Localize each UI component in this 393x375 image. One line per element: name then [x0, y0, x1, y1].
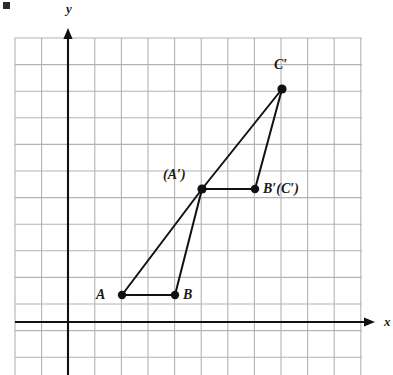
- point-label-b-prime-c-prime: B′(C′): [263, 182, 299, 196]
- point-label-b: B: [183, 288, 192, 302]
- point-dot-b: [171, 291, 179, 299]
- y-axis-arrowhead: [63, 28, 72, 39]
- point-dot-a-prime: [197, 184, 206, 193]
- segment-Bprime-Cprime: [255, 89, 282, 189]
- x-axis-arrowhead: [364, 317, 375, 326]
- corner-artifact-mark: [3, 2, 10, 9]
- x-axis-label: x: [384, 315, 391, 328]
- point-label-a: A: [96, 288, 105, 302]
- point-dot-b-prime-c-prime: [251, 185, 259, 193]
- coordinate-plane-canvas: [0, 0, 393, 375]
- segment-B-Aprime: [175, 189, 202, 295]
- segment-A-Aprime: [122, 189, 202, 295]
- geometry-figure: y x A B (A′) B′(C′) C′: [0, 0, 393, 375]
- point-dot-a: [118, 291, 126, 299]
- segment-Aprime-Cprime: [202, 89, 282, 189]
- point-label-a-prime: (A′): [163, 168, 186, 182]
- axes: [15, 28, 375, 375]
- y-axis-label: y: [66, 2, 72, 15]
- point-dot-c-prime: [277, 84, 286, 93]
- point-label-c-prime: C′: [274, 58, 287, 72]
